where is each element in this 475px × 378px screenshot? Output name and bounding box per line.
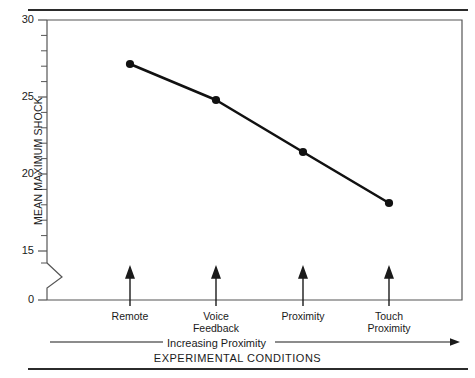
increasing-proximity-label: Increasing Proximity [167, 337, 266, 349]
condition-label-proximity: Proximity [253, 311, 353, 323]
condition-label-voice-feedback-line2: Feedback [166, 323, 266, 335]
figure-container: 30 25 20 15 0 MEAN MAXIMUM SHOCK Remote … [0, 0, 475, 378]
y-tick-label-0: 0 [8, 293, 34, 305]
data-point-proximity [299, 148, 307, 156]
x-axis-title: EXPERIMENTAL CONDITIONS [0, 352, 475, 364]
axis-break-zigzag [47, 263, 62, 292]
plot-frame [47, 20, 462, 300]
data-point-remote [126, 60, 134, 68]
data-point-voice-feedback [212, 96, 220, 104]
condition-label-voice-feedback: Voice Feedback [166, 311, 266, 334]
condition-label-touch-proximity-line2: Proximity [339, 323, 439, 335]
condition-label-proximity-line1: Proximity [253, 311, 353, 323]
y-tick-label-20: 20 [8, 167, 34, 179]
condition-label-remote: Remote [80, 311, 180, 323]
y-tick-label-15: 15 [8, 244, 34, 256]
series-markers [126, 60, 393, 207]
y-axis-title: MEAN MAXIMUM SHOCK [32, 86, 44, 236]
y-tick-label-25: 25 [8, 90, 34, 102]
condition-label-remote-line1: Remote [80, 311, 180, 323]
data-point-touch-proximity [385, 199, 393, 207]
y-tick-label-30: 30 [8, 13, 34, 25]
condition-label-voice-feedback-line1: Voice [166, 311, 266, 323]
series-line [130, 64, 389, 203]
condition-label-touch-proximity-line1: Touch [339, 311, 439, 323]
condition-label-touch-proximity: Touch Proximity [339, 311, 439, 334]
